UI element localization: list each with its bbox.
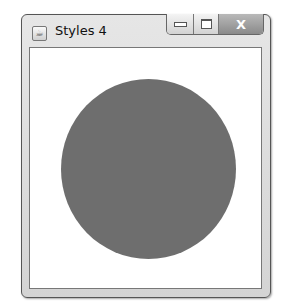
title-bar[interactable]: ☕ Styles 4 X [22, 15, 270, 47]
close-icon: X [236, 17, 246, 32]
canvas-panel [29, 47, 262, 289]
minimize-button[interactable] [167, 14, 194, 34]
maximize-icon [201, 19, 212, 29]
java-cup-icon[interactable]: ☕ [32, 26, 47, 41]
maximize-button[interactable] [194, 14, 219, 34]
filled-circle [61, 79, 236, 259]
app-window: ☕ Styles 4 X [21, 14, 271, 298]
minimize-icon [174, 22, 187, 27]
close-button[interactable]: X [219, 14, 263, 34]
window-controls: X [166, 14, 264, 35]
window-title: Styles 4 [55, 23, 107, 38]
